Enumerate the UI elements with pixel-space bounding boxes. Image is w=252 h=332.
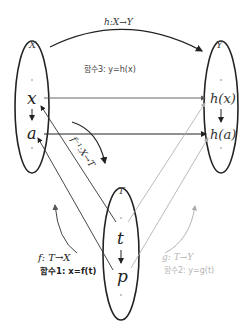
f-formula-label: 함수1: x=f(t) xyxy=(40,264,96,276)
f-mapping-label: f: T→X xyxy=(38,252,70,263)
h-mapping-arrow xyxy=(50,29,202,51)
set-t xyxy=(103,188,139,320)
h-mapping-label: h:X→Y xyxy=(104,17,133,27)
element-p: p xyxy=(117,266,128,286)
set-y-label: Y xyxy=(216,39,223,50)
set-x-label: X xyxy=(29,39,36,50)
g-formula-label: 함수2: y=g(t) xyxy=(164,264,214,275)
element-ha: h(a) xyxy=(210,127,236,142)
g-mapping-label: g: T→Y xyxy=(162,252,193,262)
f-t-to-x-line xyxy=(41,106,116,222)
f-p-to-a-line xyxy=(38,138,113,270)
set-y xyxy=(204,41,238,173)
h-formula-label: 함수3: y=h(x) xyxy=(84,63,136,74)
element-hx: h(x) xyxy=(210,91,236,106)
g-curved-arrow xyxy=(165,206,195,253)
set-t-label: T xyxy=(118,185,125,196)
element-x: x xyxy=(27,88,37,108)
f-curved-arrow xyxy=(55,205,77,253)
element-t: t xyxy=(117,228,124,248)
element-a: a xyxy=(27,124,37,143)
